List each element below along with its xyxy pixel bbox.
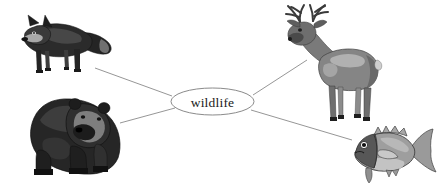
fox-pupil bbox=[33, 32, 35, 34]
deer-ear-right bbox=[314, 20, 327, 28]
fox-paws bbox=[36, 67, 81, 73]
bear-nose bbox=[76, 128, 83, 133]
deer-antlers bbox=[286, 5, 328, 22]
fish-head bbox=[355, 134, 377, 168]
fox-illustration[interactable] bbox=[21, 15, 111, 73]
wildlife-word-web: wildlife bbox=[0, 0, 442, 192]
connector-to-fish bbox=[251, 110, 352, 140]
deer-tail bbox=[375, 60, 382, 70]
deer-leg-rear-near bbox=[364, 88, 371, 120]
fox-leg-front-near bbox=[36, 50, 42, 72]
fox-leg-rear-near bbox=[74, 49, 80, 71]
fish-pupil bbox=[362, 143, 366, 147]
center-node-label: wildlife bbox=[191, 95, 235, 110]
bear-eye-left bbox=[81, 115, 85, 119]
connector-to-bear bbox=[120, 108, 175, 123]
bear-ear-left bbox=[69, 99, 81, 110]
deer-leg-front-far bbox=[338, 87, 343, 118]
fox-ear-right bbox=[43, 15, 52, 27]
bear-eye-right bbox=[97, 117, 101, 121]
bear-illustration[interactable] bbox=[31, 99, 120, 176]
fish-illustration[interactable] bbox=[355, 126, 436, 183]
fox-ear-left bbox=[28, 15, 39, 26]
connector-to-deer bbox=[253, 60, 307, 95]
deer-illustration[interactable] bbox=[286, 5, 382, 121]
fox-tail-tip bbox=[99, 39, 109, 53]
deer-nose bbox=[288, 37, 292, 41]
fish-tail-fin bbox=[412, 129, 436, 172]
bear-ear-right bbox=[98, 103, 110, 114]
deer-eye bbox=[298, 28, 302, 31]
fish-pelvic-fin bbox=[366, 168, 372, 183]
connector-to-fox bbox=[95, 68, 172, 96]
center-node-wildlife[interactable]: wildlife bbox=[171, 88, 254, 115]
fox-nose bbox=[21, 37, 28, 41]
deer-leg-front-near bbox=[329, 86, 336, 120]
deer-leg-rear-far bbox=[355, 88, 361, 117]
